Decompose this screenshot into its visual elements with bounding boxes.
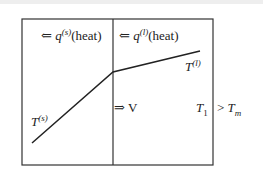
velocity-label: ⇒ V — [114, 100, 137, 116]
q-liquid-label: ⇐ q(l)(heat) — [119, 27, 178, 44]
t-solid-label: T(s) — [31, 113, 48, 130]
q-solid-label: ⇐ q(s)(heat) — [41, 27, 101, 44]
t-liquid-label: T(l) — [185, 58, 201, 75]
t1-label: T1 — [196, 100, 208, 118]
temperature-condition-label: > Tm — [217, 100, 241, 118]
temperature-profile — [32, 51, 200, 143]
